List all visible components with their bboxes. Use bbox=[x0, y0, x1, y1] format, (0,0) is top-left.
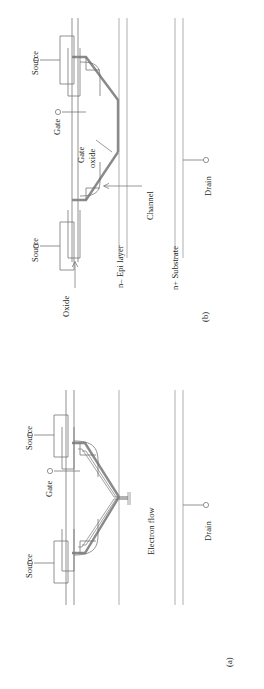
panel-a-artwork bbox=[0, 345, 264, 689]
electron-flow-lines bbox=[78, 449, 130, 547]
panel-tag-a: (a) bbox=[224, 657, 234, 667]
channel-arrow bbox=[104, 183, 143, 188]
drain-terminal-a bbox=[183, 502, 209, 507]
label-source-lower-a: Source bbox=[24, 554, 34, 578]
gate-oxide-trench bbox=[72, 57, 118, 200]
gate-oxide-leader bbox=[96, 140, 112, 152]
oxide-surface bbox=[72, 18, 78, 262]
oxide-arrow bbox=[72, 262, 78, 289]
label-substrate: n+ Substrate bbox=[170, 246, 180, 290]
label-gate-a: Gate bbox=[44, 481, 54, 497]
label-electron-flow: Electron flow bbox=[146, 507, 156, 555]
panel-b: Source Gate Gate oxide Source Oxide Chan… bbox=[0, 0, 264, 344]
label-source-lower-b: Source bbox=[30, 238, 40, 262]
label-oxide: Oxide bbox=[61, 296, 71, 317]
label-source-upper-b: Source bbox=[30, 51, 40, 75]
panel-tag-b: (b) bbox=[200, 312, 210, 322]
layer-boundaries-a bbox=[119, 390, 183, 605]
label-gate-oxide-line1: Gate bbox=[76, 147, 86, 163]
drain-terminal-b bbox=[183, 157, 209, 162]
label-gate-oxide-line2: oxide bbox=[87, 149, 97, 168]
figure-root: Source Gate Gate oxide Source Oxide Chan… bbox=[0, 0, 264, 689]
layer-boundaries bbox=[119, 18, 183, 258]
label-channel: Channel bbox=[145, 191, 155, 220]
label-epi-layer: n– Epi layer bbox=[115, 245, 125, 288]
source-cell-upper bbox=[33, 36, 100, 96]
gate-oxide-trench-a bbox=[72, 443, 119, 553]
label-drain-a: Drain bbox=[203, 521, 213, 541]
source-cell-lower bbox=[33, 162, 100, 270]
oxide-surface-a bbox=[66, 390, 74, 605]
label-source-upper-a: Source bbox=[24, 426, 34, 450]
panel-a: Source Gate Source Electron flow Drain (… bbox=[0, 345, 264, 689]
label-gate-b: Gate bbox=[52, 119, 62, 135]
gate-terminal-b bbox=[55, 109, 86, 114]
label-drain-b: Drain bbox=[203, 176, 213, 196]
